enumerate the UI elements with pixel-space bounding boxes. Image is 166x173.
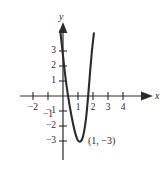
xtick-label-4: 4 <box>121 103 126 113</box>
function-curve <box>60 31 94 142</box>
xtick-label-3: 3 <box>106 103 111 113</box>
xtick-label-neg2: −2 <box>28 103 38 113</box>
ytick-label-neg3: −3 <box>46 136 56 146</box>
x-axis-label: x <box>155 91 159 101</box>
vertex-point-label: (1, −3) <box>88 136 115 146</box>
coordinate-plane <box>0 0 166 173</box>
ytick-label-neg1: −1 <box>46 106 56 116</box>
xtick-label-1: 1 <box>76 103 81 113</box>
y-axis-label: y <box>59 12 63 22</box>
ytick-label-2: 2 <box>51 61 56 71</box>
ytick-label-1: 1 <box>51 76 56 86</box>
xtick-label-2: 2 <box>91 103 96 113</box>
ytick-label-3: 3 <box>51 46 56 56</box>
graph-figure: −2 −1 1 2 3 4 3 2 1 −1 −2 −3 x y (1, −3) <box>0 0 166 173</box>
ytick-label-neg2: −2 <box>46 121 56 131</box>
x-axis-arrowhead <box>141 92 153 101</box>
